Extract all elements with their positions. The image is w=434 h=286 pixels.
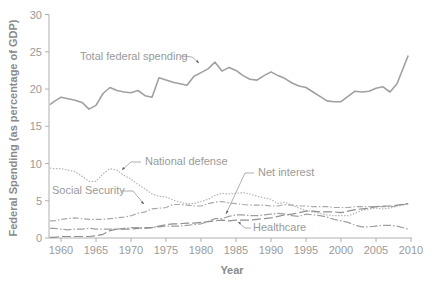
annotation-arrow-defense [122, 162, 141, 170]
arrowhead-icon [226, 211, 229, 215]
y-tick-label: 10 [30, 158, 42, 170]
x-tick-label: 2010 [399, 244, 423, 256]
x-tick-label: 1995 [294, 244, 318, 256]
series-group [50, 56, 408, 238]
annotation-total-federal-spending: Total federal spending [80, 50, 188, 62]
y-tick-label: 5 [36, 195, 42, 207]
x-tick-label: 1990 [259, 244, 283, 256]
x-tick-label: 1970 [119, 244, 143, 256]
y-tick-label: 25 [30, 46, 42, 58]
y-tick-label: 20 [30, 83, 42, 95]
series-social-security [50, 202, 408, 221]
x-tick-label: 1960 [49, 244, 73, 256]
x-tick-label: 2005 [364, 244, 388, 256]
annotation-social-security: Social Security [52, 184, 125, 196]
x-tick-label: 1975 [154, 244, 178, 256]
x-tick-label: 1980 [189, 244, 213, 256]
y-tick-label: 0 [36, 232, 42, 244]
x-tick-label: 2000 [329, 244, 353, 256]
annotation-healthcare: Healthcare [253, 221, 306, 233]
annotations: Total federal spending National defense … [52, 50, 314, 233]
y-tick-label: 30 [30, 9, 42, 21]
line-chart: 051015202530 196019651970197519801985199… [0, 0, 434, 286]
x-axis: 1960196519701975198019851990199520002005… [49, 238, 423, 256]
y-tick-label: 15 [30, 120, 42, 132]
y-axis: 051015202530 [30, 9, 49, 245]
series-healthcare [50, 204, 408, 238]
y-axis-title: Federal Spending (as percentage of GDP) [7, 19, 19, 236]
annotation-national-defense: National defense [145, 155, 228, 167]
series-total-federal-spending [50, 56, 408, 110]
x-axis-title: Year [220, 264, 244, 276]
series-net-interest [50, 213, 408, 229]
annotation-net-interest: Net interest [258, 166, 314, 178]
x-tick-label: 1965 [84, 244, 108, 256]
x-tick-label: 1985 [224, 244, 248, 256]
